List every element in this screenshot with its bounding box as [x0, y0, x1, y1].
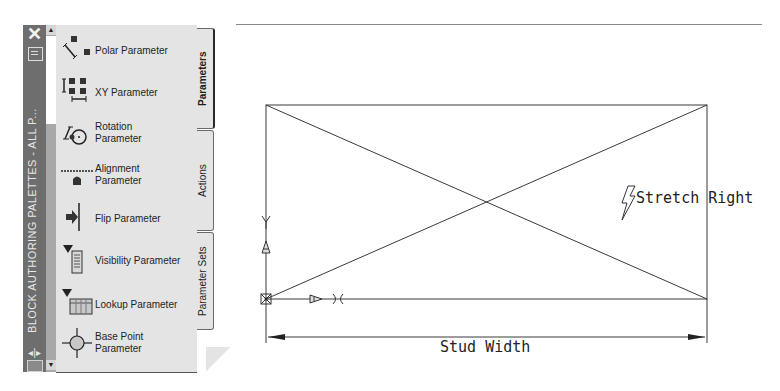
palette-corner [206, 347, 230, 372]
item-label: Base Point Parameter [95, 331, 143, 355]
tab-label: Parameters [197, 29, 213, 128]
xy-parameter-icon [60, 75, 94, 107]
tab-actions[interactable]: Actions [197, 130, 214, 231]
item-label: Visibility Parameter [95, 255, 180, 267]
dimension-arrow-right [688, 334, 705, 340]
item-label: XY Parameter [95, 87, 158, 99]
scroll-up-button[interactable]: ▲ [46, 25, 56, 35]
dimension-arrow-left [268, 334, 285, 340]
item-label-line2: Parameter [95, 175, 142, 187]
x-axis-grip-icon[interactable] [310, 295, 322, 303]
rotation-parameter-icon [60, 117, 94, 149]
item-label: Flip Parameter [95, 213, 161, 225]
scroll-down-button[interactable]: ▼ [46, 360, 56, 370]
palette-item-visibility-parameter[interactable]: Visibility Parameter [56, 239, 197, 279]
polar-parameter-icon [60, 33, 94, 65]
palette-title: BLOCK AUTHORING PALETTES - ALL P... [26, 73, 43, 333]
palette-content: Polar Parameter XY Parameter [56, 25, 197, 373]
palette-item-alignment-parameter[interactable]: Alignment Parameter [56, 155, 197, 195]
palette-scrollbar[interactable]: ▲ ▼ [46, 25, 56, 372]
item-label-line2: Parameter [95, 343, 143, 355]
scroll-thumb[interactable] [46, 36, 56, 124]
tab-parameters[interactable]: Parameters [197, 28, 215, 129]
palette-item-base-point-parameter[interactable]: Base Point Parameter [56, 323, 197, 363]
palette-item-lookup-parameter[interactable]: Lookup Parameter [56, 281, 197, 321]
item-label: Alignment Parameter [95, 163, 142, 187]
autohide-icon[interactable]: ◂|▸ [27, 348, 42, 358]
flip-parameter-icon [60, 201, 94, 233]
dimension-label[interactable]: Stud Width [440, 338, 530, 356]
stretch-action-label[interactable]: Stretch Right [636, 189, 753, 207]
palette-item-xy-parameter[interactable]: XY Parameter [56, 71, 197, 111]
palette-item-flip-parameter[interactable]: Flip Parameter [56, 197, 197, 237]
tool-palette[interactable]: ✕ BLOCK AUTHORING PALETTES - ALL P... ◂|… [23, 25, 213, 373]
item-label-line1: Alignment [95, 163, 142, 175]
lookup-parameter-icon [60, 285, 94, 317]
base-point-parameter-icon [60, 327, 94, 359]
item-label-line1: Rotation [95, 121, 142, 133]
palette-item-rotation-parameter[interactable]: Rotation Parameter [56, 113, 197, 153]
tab-parameter-sets[interactable]: Parameter Sets [197, 232, 214, 330]
visibility-parameter-icon [60, 243, 94, 275]
close-icon[interactable]: ✕ [26, 26, 43, 43]
item-label: Polar Parameter [95, 45, 168, 57]
lightning-bolt-icon[interactable] [622, 186, 635, 220]
item-label-line2: Parameter [95, 133, 142, 145]
item-label: Lookup Parameter [95, 299, 177, 311]
tab-label: Actions [197, 131, 213, 230]
item-label: Rotation Parameter [95, 121, 142, 145]
y-axis-grip-icon[interactable] [262, 241, 270, 253]
properties-icon[interactable] [28, 47, 43, 61]
palette-menu-icon[interactable] [27, 360, 43, 372]
item-label-line1: Base Point [95, 331, 143, 343]
palette-title-bar[interactable]: ✕ BLOCK AUTHORING PALETTES - ALL P... ◂|… [23, 25, 46, 372]
alignment-parameter-icon [60, 159, 94, 191]
palette-item-polar-parameter[interactable]: Polar Parameter [56, 29, 197, 69]
tab-label: Parameter Sets [197, 233, 213, 329]
